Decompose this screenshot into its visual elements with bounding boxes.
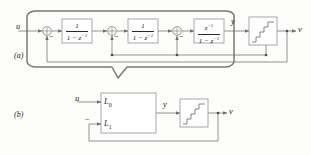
- loop-filter-box: [101, 93, 156, 133]
- quantizer-box-a: [249, 17, 277, 45]
- figure-container: (a) (b) u y v − − − 1 1 − z−1 1 1 − z−1 …: [0, 0, 311, 155]
- transfer-function-boxes: [62, 19, 224, 43]
- diagram-canvas: [0, 0, 311, 155]
- diagram-b-junction-dots: [217, 112, 220, 115]
- quantizer-box-b: [180, 99, 208, 127]
